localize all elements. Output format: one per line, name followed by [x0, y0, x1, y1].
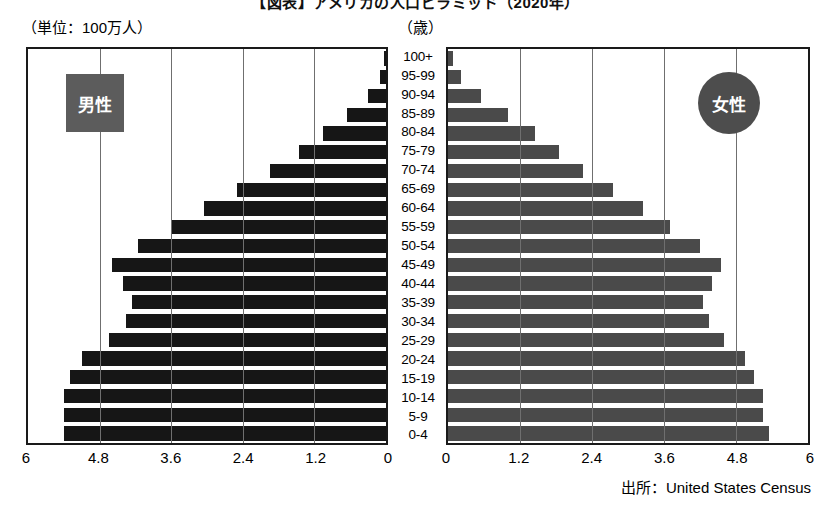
bar-right-50-54 — [448, 239, 700, 253]
age-group-label: 90-94 — [390, 85, 446, 104]
x-tick-label: 1.2 — [508, 449, 529, 466]
bar-row — [448, 349, 808, 368]
bar-row — [28, 180, 386, 199]
bar-right-25-29 — [448, 333, 724, 347]
bar-row — [28, 274, 386, 293]
bar-left-45-49 — [112, 258, 386, 272]
bar-row — [448, 199, 808, 218]
age-group-label: 20-24 — [390, 350, 446, 369]
bar-right-100plus — [448, 51, 453, 65]
bar-row — [28, 237, 386, 256]
bar-left-30-34 — [126, 314, 386, 328]
age-group-label: 45-49 — [390, 255, 446, 274]
bar-left-5-9 — [64, 408, 386, 422]
bar-left-100plus — [384, 51, 386, 65]
legend-male: 男性 — [66, 74, 124, 132]
age-group-label: 55-59 — [390, 217, 446, 236]
bar-row — [28, 312, 386, 331]
bar-row — [448, 237, 808, 256]
x-tick-label: 1.2 — [305, 449, 326, 466]
bar-row — [448, 162, 808, 181]
age-group-label: 75-79 — [390, 142, 446, 161]
age-group-label: 85-89 — [390, 104, 446, 123]
bar-row — [448, 143, 808, 162]
bar-right-85-89 — [448, 108, 508, 122]
x-tick-label: 6 — [22, 449, 30, 466]
bar-right-45-49 — [448, 258, 721, 272]
gridline — [592, 49, 593, 443]
gridline — [171, 49, 172, 443]
age-group-label: 15-19 — [390, 369, 446, 388]
bar-right-5-9 — [448, 408, 763, 422]
bar-left-60-64 — [204, 201, 386, 215]
age-group-label: 5-9 — [390, 407, 446, 426]
age-group-label: 65-69 — [390, 180, 446, 199]
bar-row — [448, 330, 808, 349]
age-group-label: 10-14 — [390, 388, 446, 407]
bar-right-80-84 — [448, 126, 535, 140]
x-tick-label: 4.8 — [88, 449, 109, 466]
bar-left-50-54 — [138, 239, 386, 253]
bar-right-60-64 — [448, 201, 643, 215]
bar-right-95-99 — [448, 70, 461, 84]
age-group-label: 70-74 — [390, 161, 446, 180]
bar-row — [448, 124, 808, 143]
bar-left-90-94 — [368, 89, 386, 103]
female-x-axis: 01.22.43.64.86 — [446, 449, 810, 471]
bar-left-55-59 — [171, 220, 386, 234]
bar-right-15-19 — [448, 370, 754, 384]
x-tick-label: 6 — [806, 449, 814, 466]
legend-female: 女性 — [698, 72, 760, 134]
unit-label: （単位：100万人） — [22, 16, 152, 37]
gridline — [664, 49, 665, 443]
age-group-label: 100+ — [390, 47, 446, 66]
bar-row — [28, 330, 386, 349]
bar-left-85-89 — [347, 108, 386, 122]
x-tick-label: 0 — [384, 449, 392, 466]
age-group-axis: 100+95-9990-9485-8980-8475-7970-7465-696… — [390, 47, 446, 445]
bar-right-70-74 — [448, 164, 583, 178]
bar-row — [28, 143, 386, 162]
age-group-label: 50-54 — [390, 236, 446, 255]
bar-row — [28, 255, 386, 274]
x-tick-label: 3.6 — [160, 449, 181, 466]
bar-row — [448, 49, 808, 68]
bar-row — [448, 180, 808, 199]
bar-right-10-14 — [448, 389, 763, 403]
age-group-label: 60-64 — [390, 199, 446, 218]
bar-right-20-24 — [448, 351, 745, 365]
page-title: 【図表】アメリカの人口ピラミッド（2020年） — [0, 0, 831, 12]
bar-row — [448, 274, 808, 293]
bar-right-90-94 — [448, 89, 481, 103]
bar-right-75-79 — [448, 145, 559, 159]
age-group-label: 35-39 — [390, 293, 446, 312]
bar-row — [448, 312, 808, 331]
gridline — [314, 49, 315, 443]
bar-row — [448, 218, 808, 237]
x-tick-label: 2.4 — [581, 449, 602, 466]
bar-left-10-14 — [64, 389, 386, 403]
gridline — [520, 49, 521, 443]
bar-left-20-24 — [82, 351, 386, 365]
age-group-label: 80-84 — [390, 123, 446, 142]
age-group-label: 30-34 — [390, 312, 446, 331]
bar-row — [28, 218, 386, 237]
bar-left-0-4 — [64, 426, 386, 440]
bar-row — [28, 387, 386, 406]
bar-right-30-34 — [448, 314, 709, 328]
age-group-label: 25-29 — [390, 331, 446, 350]
bar-right-65-69 — [448, 183, 613, 197]
bar-row — [28, 349, 386, 368]
bar-row — [28, 424, 386, 443]
bar-row — [28, 405, 386, 424]
bar-row — [28, 199, 386, 218]
x-tick-label: 4.8 — [727, 449, 748, 466]
bar-left-40-44 — [123, 276, 386, 290]
bar-row — [28, 368, 386, 387]
x-tick-label: 3.6 — [654, 449, 675, 466]
male-x-axis: 64.83.62.41.20 — [26, 449, 388, 471]
bar-row — [448, 255, 808, 274]
bar-right-55-59 — [448, 220, 670, 234]
bar-row — [448, 387, 808, 406]
bar-row — [448, 293, 808, 312]
